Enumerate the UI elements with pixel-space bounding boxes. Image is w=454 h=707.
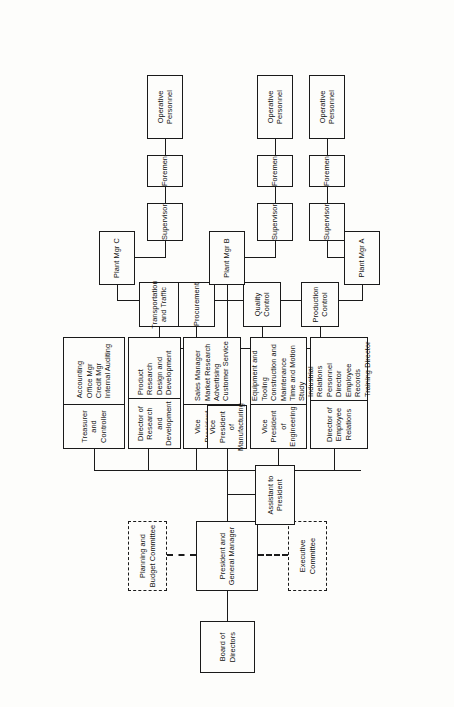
connector-plantb-supervisor (275, 241, 276, 258)
node-plant-manager-a[interactable]: Plant Mgr A (344, 231, 380, 285)
node-supervisor-plant-b[interactable]: Supervisor (257, 203, 293, 241)
node-label: Supervisor (160, 204, 169, 240)
node-label: Assistant to President (266, 475, 285, 514)
node-treasurer-and-controller[interactable]: Treasurer and Controller Accounting Offi… (63, 337, 125, 449)
node-vice-president-manufacturing[interactable]: Vice President of Manufacturing (207, 405, 247, 449)
node-foremen-plant-c[interactable]: Foremen (147, 155, 183, 187)
node-label: Supervisor (322, 204, 331, 240)
node-label: Supervisor (270, 204, 279, 240)
node-label: Director of Research and Development (136, 401, 174, 446)
connector-supervisorb-foremen (275, 187, 276, 203)
connector-foremena-operative (327, 139, 328, 155)
node-title-cell: Treasurer and Controller (64, 404, 124, 448)
node-director-research-development[interactable]: Director of Research and Development Pro… (128, 337, 181, 449)
node-items-cell: Product Research Design and Development (129, 338, 180, 398)
node-items-cell: Industrial Relations Personnel Director … (311, 338, 367, 400)
node-label: Transportation and Traffic (150, 280, 169, 328)
node-items-cell: Equipment and Tooling Construction and M… (251, 338, 306, 404)
connector-president-executive-committee (258, 554, 288, 556)
node-planning-budget-committee[interactable]: Planning and Budget Committee (128, 521, 167, 591)
node-assistant-to-president[interactable]: Assistant to President (255, 465, 295, 525)
node-plant-manager-c[interactable]: Plant Mgr C (99, 231, 135, 285)
node-label: Quality Control (253, 284, 272, 325)
node-vice-president-engineering[interactable]: Vice President of Engineering Equipment … (250, 337, 307, 449)
node-items-cell: Sales Manager Market Research Advertisin… (184, 338, 240, 404)
node-transportation-and-traffic[interactable]: Transportation and Traffic (139, 282, 179, 327)
connector-spine-assistant (227, 494, 255, 495)
connector-board-president (227, 591, 228, 621)
node-production-control[interactable]: Production Control (301, 282, 339, 327)
node-title-cell: Director of Employee Relations (311, 400, 367, 448)
node-label: Foremen (160, 156, 169, 186)
node-president[interactable]: President and General Manager (196, 521, 258, 591)
connector-president-spine (227, 471, 228, 521)
node-label: Vice President of Engineering (260, 406, 298, 446)
connector-foremenb-operative (275, 139, 276, 155)
node-title-cell: Director of Research and Development (129, 398, 180, 448)
node-label: Foremen (322, 156, 331, 186)
node-executive-committee[interactable]: Executive Committee (288, 521, 327, 591)
node-label: Vice President of Manufacturing (208, 403, 246, 451)
connector-plant-c (117, 285, 118, 301)
node-foremen-plant-b[interactable]: Foremen (257, 155, 293, 187)
node-label: Executive Committee (298, 538, 317, 574)
node-label: Plant Mgr B (222, 238, 231, 277)
node-board-of-directors[interactable]: Board of Directors (200, 621, 255, 673)
node-quality-control[interactable]: Quality Control (243, 282, 281, 327)
connector-foremenc-operative (165, 139, 166, 155)
node-label: President and General Manager (218, 527, 237, 586)
connector-plant-b (227, 285, 228, 301)
connector-supervisora-foremen (327, 187, 328, 203)
node-items: Equipment and Tooling Construction and M… (250, 341, 307, 401)
node-items: Product Research Design and Development (136, 341, 174, 395)
node-plant-manager-b[interactable]: Plant Mgr B (209, 231, 245, 285)
org-chart-canvas: Board of Directors President and General… (0, 0, 454, 707)
node-items: Industrial Relations Personnel Director … (306, 341, 372, 397)
node-operative-personnel-plant-c[interactable]: Operative Personnel (147, 75, 183, 139)
connector-spine-treasurer (94, 449, 95, 471)
node-label: Treasurer and Controller (80, 407, 108, 446)
node-label: Director of Employee Relations (325, 403, 353, 446)
node-items: Accounting Office Mgr Credit Mgr Interna… (75, 344, 113, 398)
node-title-cell: Vice President of Engineering (251, 404, 306, 448)
connector-spine-employee-relations (334, 449, 335, 471)
node-label: Plant Mgr C (112, 238, 121, 278)
node-director-employee-relations[interactable]: Director of Employee Relations Industria… (310, 337, 368, 449)
node-label: Procurement (192, 283, 201, 326)
connector-plantc-supervisor (165, 241, 166, 258)
node-supervisor-plant-c[interactable]: Supervisor (147, 203, 183, 241)
node-operative-personnel-plant-a[interactable]: Operative Personnel (309, 75, 345, 139)
node-items: Sales Manager Market Research Advertisin… (193, 341, 231, 401)
connector-president-planning-committee (167, 554, 196, 556)
node-label: Operative Personnel (318, 77, 337, 137)
node-label: Board of Directors (218, 623, 237, 671)
node-operative-personnel-plant-b[interactable]: Operative Personnel (257, 75, 293, 139)
node-foremen-plant-a[interactable]: Foremen (309, 155, 345, 187)
connector-supervisorc-foremen (165, 187, 166, 203)
connector-planta-supervisor (327, 241, 328, 258)
org-chart-page: Board of Directors President and General… (0, 0, 454, 707)
node-label: Operative Personnel (266, 77, 285, 137)
node-label: Planning and Budget Committee (138, 525, 157, 587)
connector-plant-a (362, 285, 363, 301)
node-label: Foremen (270, 156, 279, 186)
node-items-cell: Accounting Office Mgr Credit Mgr Interna… (64, 338, 124, 404)
connector-spine-research (148, 449, 149, 471)
node-label: Plant Mgr A (357, 239, 366, 278)
connector-spine-marketing (196, 449, 197, 471)
node-label: Operative Personnel (156, 77, 175, 137)
connector-spine-manufacturing (227, 449, 228, 471)
node-supervisor-plant-a[interactable]: Supervisor (309, 203, 345, 241)
node-procurement[interactable]: Procurement (178, 282, 215, 327)
node-label: Production Control (311, 284, 330, 325)
